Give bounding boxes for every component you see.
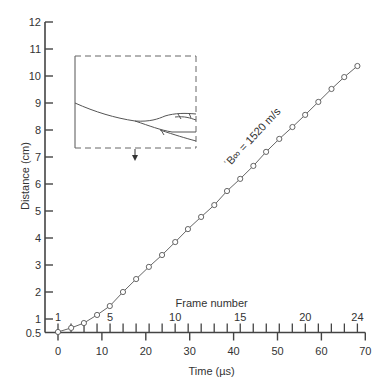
- data-point-marker: [316, 99, 321, 104]
- data-series: [55, 63, 360, 334]
- data-point-marker: [303, 112, 308, 117]
- data-point-marker: [81, 320, 86, 325]
- frame-tick-label: 15: [234, 311, 246, 323]
- y-tick-label: 1: [35, 313, 41, 325]
- frame-tick-label: 20: [299, 311, 311, 323]
- data-point-marker: [69, 325, 74, 330]
- frame-tick-label: 10: [169, 311, 181, 323]
- y-axis-title: Distance (cm): [19, 142, 31, 210]
- y-tick-label: 7: [35, 151, 41, 163]
- data-point-marker: [94, 312, 99, 317]
- x-tick-label: 40: [227, 345, 239, 357]
- x-axis-title: Time (µs): [189, 365, 235, 377]
- data-point-marker: [224, 188, 229, 193]
- y-tick-label: 2: [35, 286, 41, 298]
- data-point-marker: [251, 163, 256, 168]
- x-tick-label: 0: [55, 345, 61, 357]
- axes: [45, 22, 365, 341]
- data-point-marker: [120, 289, 125, 294]
- chart: 0.51234567891011120102030405060701510152…: [0, 0, 385, 386]
- x-tick-label: 60: [315, 345, 327, 357]
- x-tick-label: 20: [140, 345, 152, 357]
- data-point-marker: [185, 226, 190, 231]
- y-tick-label: 3: [35, 259, 41, 271]
- y-tick-label: 5: [35, 205, 41, 217]
- y-tick-label: 11: [30, 43, 41, 55]
- data-point-marker: [199, 214, 204, 219]
- frame-axis-title: Frame number: [176, 297, 248, 309]
- data-point-marker: [134, 276, 139, 281]
- y-tick-label: 12: [29, 16, 41, 28]
- y-tick-label: 0.5: [26, 327, 41, 339]
- series-line: [58, 66, 357, 332]
- y-tick-label: 8: [35, 124, 41, 136]
- data-point-marker: [277, 136, 282, 141]
- velocity-annotation: ʿB∞ = 1520 m/s: [222, 105, 283, 170]
- labels: 0.51234567891011120102030405060701510152…: [19, 16, 371, 377]
- x-tick-label: 30: [184, 345, 196, 357]
- data-point-marker: [146, 264, 151, 269]
- frame-tick-label: 24: [351, 311, 363, 323]
- data-point-marker: [355, 63, 360, 68]
- y-tick-label: 6: [35, 178, 41, 190]
- x-tick-label: 10: [96, 345, 108, 357]
- y-tick-label: 10: [29, 70, 41, 82]
- y-tick-label: 4: [35, 232, 41, 244]
- x-tick-label: 70: [359, 345, 371, 357]
- frame-tick-label: 1: [55, 311, 61, 323]
- y-tick-label: 9: [35, 97, 41, 109]
- data-point-marker: [238, 176, 243, 181]
- data-point-marker: [342, 74, 347, 79]
- inset-sketch: [75, 56, 196, 161]
- data-point-marker: [263, 149, 268, 154]
- data-point-marker: [159, 252, 164, 257]
- data-point-marker: [107, 303, 112, 308]
- data-point-marker: [212, 202, 217, 207]
- down-arrow-icon: [132, 155, 138, 161]
- frame-tick-label: 5: [107, 311, 113, 323]
- data-point-marker: [329, 86, 334, 91]
- data-point-marker: [173, 239, 178, 244]
- x-tick-label: 50: [271, 345, 283, 357]
- data-point-marker: [290, 124, 295, 129]
- data-point-marker: [55, 329, 60, 334]
